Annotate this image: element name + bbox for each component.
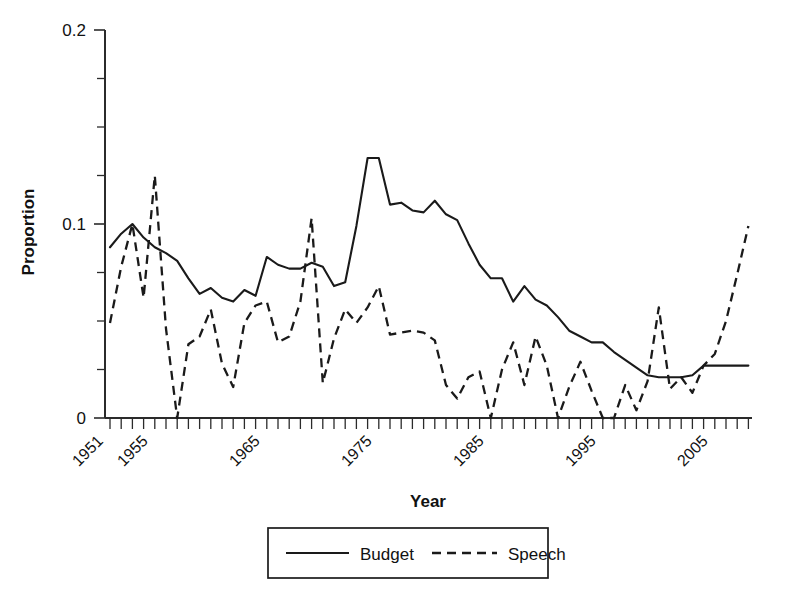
x-axis-title: Year	[410, 492, 446, 511]
series-line-budget	[110, 158, 748, 377]
y-axis-title: Proportion	[19, 189, 38, 276]
legend-label-budget: Budget	[360, 545, 414, 564]
x-axis-ticks	[110, 418, 748, 429]
y-tick-label: 0.2	[62, 21, 86, 40]
y-axis-tick-labels: 00.10.2	[62, 21, 86, 428]
x-tick-label: 1995	[562, 432, 599, 469]
x-tick-label: 1955	[114, 432, 151, 469]
y-tick-label: 0.1	[62, 215, 86, 234]
chart-legend: Budget Speech	[268, 528, 566, 578]
series-line-speech	[110, 176, 748, 419]
chart-figure: 00.10.2 1951195519651975198519952005 Pro…	[0, 0, 802, 598]
legend-label-speech: Speech	[508, 545, 566, 564]
x-axis-tick-labels: 1951195519651975198519952005	[69, 432, 711, 469]
x-tick-label: 1951	[69, 432, 106, 469]
x-tick-label: 1985	[450, 432, 487, 469]
x-tick-label: 1975	[338, 432, 375, 469]
y-tick-label: 0	[77, 409, 86, 428]
y-axis-ticks	[94, 30, 105, 418]
data-series-group	[110, 158, 748, 418]
x-tick-label: 2005	[674, 432, 711, 469]
x-tick-label: 1965	[226, 432, 263, 469]
proportion-by-year-line-chart: 00.10.2 1951195519651975198519952005 Pro…	[0, 0, 802, 598]
